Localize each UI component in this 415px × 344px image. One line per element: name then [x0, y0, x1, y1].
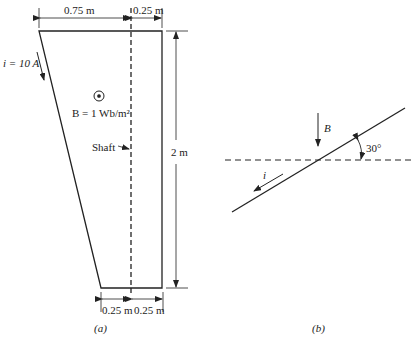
label-025-top: 0.25 m	[133, 5, 164, 16]
caption-a: (a)	[94, 323, 107, 334]
current-arrow-b	[254, 174, 283, 191]
label-field: B = 1 Wb/m²	[72, 108, 130, 119]
label-angle: 30°	[366, 143, 381, 154]
caption-b: (b)	[312, 323, 325, 334]
label-shaft: Shaft	[92, 142, 115, 153]
label-current: i = 10 A	[3, 58, 39, 69]
label-075: 0.75 m	[64, 5, 95, 16]
label-025-br: 0.25 m	[134, 305, 165, 316]
label-b-field: B	[324, 123, 331, 134]
label-b-current: i	[263, 170, 266, 181]
label-025-bl: 0.25 m	[102, 305, 133, 316]
angle-arc	[358, 140, 362, 159]
coil-loop	[39, 31, 162, 288]
label-2m: 2 m	[170, 147, 189, 158]
diagram-canvas	[0, 0, 415, 344]
